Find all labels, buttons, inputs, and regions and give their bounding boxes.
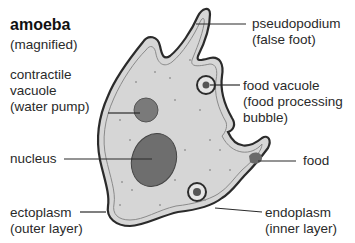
contractile-vacuole-shape [134,98,158,122]
label-pseudopodium: pseudopodium (false foot) [252,16,341,48]
label-contractile-vacuole: contractile vacuole (water pump) [10,67,90,115]
label-ectoplasm: ectoplasm (outer layer) [10,205,83,237]
label-nucleus: nucleus [10,151,57,167]
label-endoplasm: endoplasm (inner layer) [265,205,337,237]
label-food: food [303,153,329,169]
diagram-title: amoeba [10,17,70,33]
food-particle [249,152,262,163]
diagram-subtitle: (magnified) [10,37,78,53]
label-food-vacuole: food vacuole (food processing bubble) [243,78,343,126]
